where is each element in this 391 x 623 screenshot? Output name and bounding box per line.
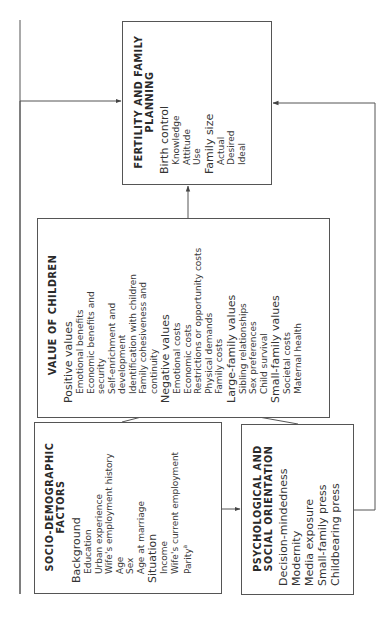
list-item: Economic benefits and security (86, 284, 107, 403)
list-item: Small-family press (316, 431, 329, 586)
list-item-parity: Paritya (180, 431, 194, 583)
diagram-stage: FERTILITY AND FAMILY PLANNING Birth cont… (0, 0, 391, 623)
list-item: Family costs (214, 227, 225, 403)
voc-title: VALUE OF CHILDREN (47, 227, 58, 403)
list-item: Age at marriage (136, 431, 147, 583)
list-item: Emotional benefits (75, 227, 86, 403)
socio-title: SOCIO-DEMOGRAPHIC FACTORS (44, 431, 66, 583)
value-of-children-box: VALUE OF CHILDREN Positive values Emotio… (37, 218, 330, 418)
group-label: Negative values (159, 227, 172, 403)
group-label: Family size (203, 30, 216, 174)
fertility-title-line1: FERTILITY AND FAMILY (133, 30, 144, 174)
list-item: Knowledge (171, 30, 182, 174)
list-item: Maternal health (293, 227, 304, 403)
list-item: Income (159, 431, 170, 583)
list-item: Societal costs (282, 227, 293, 403)
list-item: Sex preferences (248, 227, 259, 403)
footnote-mark: a (181, 545, 188, 549)
list-item: Emotional costs (172, 227, 183, 403)
list-item: Self-enrichment and development (107, 294, 128, 403)
group-label: Large-family values (225, 227, 238, 403)
list-item: Physical demands (204, 227, 215, 403)
list-item: Actual (216, 30, 227, 174)
list-item: Age (115, 431, 126, 583)
list-item: Sibling relationships (238, 227, 249, 403)
list-item: Family cohesiveness and continuity (138, 254, 159, 403)
psych-title-line2: SOCIAL ORIENTATION (263, 431, 274, 586)
psych-title-line1: PSYCHOLOGICAL AND (252, 431, 263, 586)
socio-title-line1: SOCIO-DEMOGRAPHIC (44, 431, 55, 583)
group-label: Background (70, 431, 83, 583)
socio-demographic-factors-box: SOCIO-DEMOGRAPHIC FACTORS Background Edu… (34, 422, 222, 594)
list-item: Modernity (290, 431, 303, 586)
psychological-social-orientation-box: PSYCHOLOGICAL AND SOCIAL ORIENTATION Dec… (241, 424, 354, 595)
list-item: Ideal (237, 30, 248, 174)
list-item: Economic costs (183, 227, 194, 403)
fertility-title: FERTILITY AND FAMILY PLANNING (133, 30, 155, 174)
list-item: Education (83, 431, 94, 583)
list-item: Urban experience (94, 431, 105, 583)
list-item: Media exposure (303, 431, 316, 586)
list-item: Wife's employment history (104, 431, 115, 583)
fertility-family-planning-box: FERTILITY AND FAMILY PLANNING Birth cont… (122, 21, 272, 185)
list-item: Attitude (182, 30, 193, 174)
list-item: Use (192, 30, 203, 174)
list-item: Decision-mindedness (277, 431, 290, 586)
list-item: Identification with children (128, 227, 139, 403)
list-item: Childbearing press (329, 431, 342, 586)
list-item: Restrictions or opportunity costs (193, 224, 204, 403)
fertility-title-line2: PLANNING (144, 30, 155, 174)
list-item: Sex (125, 431, 136, 583)
list-item: Desired (226, 30, 237, 174)
parity-label: Parity (183, 548, 193, 574)
list-item: Child survival (259, 227, 270, 403)
group-label: Situation (146, 431, 159, 583)
group-label: Small-family values (269, 227, 282, 403)
socio-title-line2: FACTORS (55, 431, 66, 583)
psych-title: PSYCHOLOGICAL AND SOCIAL ORIENTATION (252, 431, 274, 586)
group-label: Birth control (158, 30, 171, 174)
group-label: Positive values (62, 227, 75, 403)
list-item: Wife's current employment (170, 431, 181, 583)
